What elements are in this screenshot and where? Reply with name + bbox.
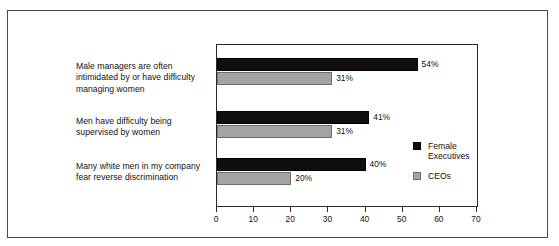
bar-ceos[interactable] (217, 125, 332, 138)
bar-value-label: 31% (332, 125, 353, 138)
bar-female-executives[interactable] (217, 58, 418, 71)
category-label: Men have difficulty being supervised by … (76, 116, 208, 139)
x-axis-tick-mark (476, 207, 477, 212)
legend-label: CEOs (428, 171, 475, 181)
x-axis-tick-label: 0 (204, 214, 228, 224)
x-axis-tick-mark (327, 207, 328, 212)
legend-entry-female-executives[interactable]: Female Executives (413, 141, 475, 162)
bar-ceos[interactable] (217, 172, 291, 185)
x-axis-tick-label: 30 (315, 214, 339, 224)
bar-value-label: 54% (418, 58, 439, 71)
category-label: Many white men in my company fear revers… (76, 161, 208, 184)
x-axis-tick-mark (365, 207, 366, 212)
legend-swatch-icon (413, 172, 421, 180)
x-axis-tick-label: 70 (464, 214, 488, 224)
category-axis-labels: Male managers are often intimidated by o… (76, 61, 208, 211)
x-axis-tick-label: 60 (427, 214, 451, 224)
chart-legend: Female Executives CEOs (413, 141, 475, 191)
bar-group: 54% 31% (217, 58, 477, 86)
x-axis-tick-mark (439, 207, 440, 212)
legend-label: Female Executives (428, 141, 475, 162)
category-label: Male managers are often intimidated by o… (76, 61, 208, 95)
x-axis-tick-label: 20 (278, 214, 302, 224)
bar-group: 41% 31% (217, 111, 477, 139)
bar-ceos[interactable] (217, 72, 332, 85)
x-axis-tick-mark (216, 207, 217, 212)
plot-area: 54% 31% 41% 31% 40% 20% Female Executive (216, 44, 478, 207)
x-axis: 010203040506070 (216, 207, 478, 231)
x-axis-tick-mark (253, 207, 254, 212)
bar-value-label: 40% (366, 158, 387, 171)
legend-swatch-icon (413, 142, 421, 150)
x-axis-tick-label: 10 (241, 214, 265, 224)
bar-value-label: 41% (369, 111, 390, 124)
plot-inner: 54% 31% 41% 31% 40% 20% Female Executive (217, 45, 477, 206)
legend-entry-ceos[interactable]: CEOs (413, 171, 475, 182)
x-axis-tick-label: 40 (353, 214, 377, 224)
x-axis-tick-mark (402, 207, 403, 212)
bar-female-executives[interactable] (217, 158, 366, 171)
bar-value-label: 31% (332, 72, 353, 85)
figure-frame: Male managers are often intimidated by o… (7, 10, 548, 238)
bar-female-executives[interactable] (217, 111, 369, 124)
x-axis-tick-mark (290, 207, 291, 212)
bar-value-label: 20% (291, 172, 312, 185)
x-axis-tick-label: 50 (390, 214, 414, 224)
